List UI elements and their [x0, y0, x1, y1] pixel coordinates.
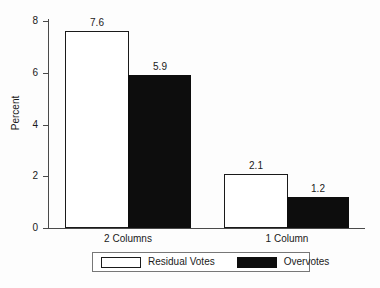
y-tick-mark-2 — [43, 176, 48, 177]
legend-entry-residual-votes: Residual Votes — [101, 257, 215, 268]
bar-overvotes-2-columns — [128, 75, 191, 228]
bar-value-overvotes-2-columns: 5.9 — [130, 62, 190, 72]
y-tick-mark-6 — [43, 73, 48, 74]
bar-residual-2-columns — [65, 31, 129, 228]
y-tick-mark-8 — [43, 21, 48, 22]
legend-swatch-black-icon — [237, 257, 277, 268]
bar-overvotes-1-column — [287, 197, 349, 228]
legend-entry-overvotes: Overvotes — [237, 257, 330, 268]
y-tick-mark-4 — [43, 125, 48, 126]
bar-value-residual-2-columns: 7.6 — [67, 18, 127, 28]
x-axis-line — [48, 228, 365, 229]
x-axis-group-label-1-column: 1 Column — [247, 233, 327, 245]
bar-residual-1-column — [224, 174, 288, 228]
legend: Residual Votes Overvotes — [92, 252, 310, 272]
y-axis-line — [48, 19, 49, 229]
y-tick-label-2: 2 — [18, 171, 38, 181]
y-tick-label-4: 4 — [18, 120, 38, 130]
y-tick-label-6: 6 — [18, 68, 38, 78]
y-tick-label-8: 8 — [18, 16, 38, 26]
x-axis-group-label-2-columns: 2 Columns — [88, 233, 168, 245]
bar-value-overvotes-1-column: 1.2 — [288, 184, 348, 194]
y-tick-mark-0 — [43, 228, 48, 229]
y-tick-label-0: 0 — [18, 223, 38, 233]
legend-label-overvotes: Overvotes — [284, 257, 330, 267]
legend-swatch-white-icon — [101, 257, 141, 268]
y-axis-title: Percent — [11, 83, 21, 143]
legend-label-residual-votes: Residual Votes — [148, 257, 215, 267]
bar-value-residual-1-column: 2.1 — [226, 161, 286, 171]
bar-chart: Percent 8 6 4 2 0 7.6 5.9 2 Columns 2.1 … — [0, 0, 380, 288]
